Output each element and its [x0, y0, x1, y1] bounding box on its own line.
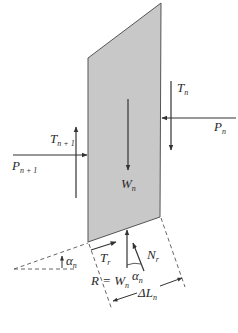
label-p-n1: Pn + 1 — [11, 158, 37, 175]
length-arrow-left — [113, 293, 137, 301]
base-extension-dashed — [14, 243, 88, 269]
label-delta-l: ΔLn — [137, 285, 157, 302]
label-p-n: Pn — [213, 119, 226, 136]
label-alpha-base: αn — [132, 268, 143, 285]
length-arrow-right — [160, 278, 182, 286]
label-n-r: Nr — [146, 247, 160, 264]
label-t-n: Tn — [177, 80, 188, 97]
label-alpha-left: αn — [66, 253, 77, 270]
perp-dashed-right — [161, 218, 185, 287]
slice-body — [88, 3, 161, 242]
label-r: R = Wn — [90, 273, 129, 290]
slice-diagram: Wn Tn Pn Tn + 1 Pn + 1 αn Tr R = Wn Nr α… — [0, 0, 238, 333]
label-t-n1: Tn + 1 — [50, 131, 75, 148]
base-normal-arrow — [133, 243, 144, 271]
alpha-arc — [127, 263, 141, 265]
base-shear-arrow — [91, 242, 116, 250]
label-t-r: Tr — [100, 250, 111, 267]
